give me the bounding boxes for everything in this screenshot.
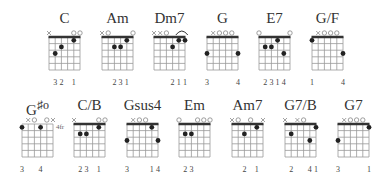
finger-number: 2 — [263, 78, 267, 87]
finger-number: 1 — [310, 78, 314, 87]
finger-number: 4 — [39, 165, 43, 172]
finger-number: 3 — [269, 78, 273, 87]
finger-number: 4 — [236, 78, 240, 87]
chord-name: G — [193, 10, 253, 26]
open-string-icon — [103, 118, 107, 122]
finger-dot — [96, 125, 101, 130]
chord-name: Am — [88, 10, 148, 26]
muted-string-icon — [230, 118, 234, 122]
muted-string-icon — [131, 118, 135, 122]
finger-dot — [20, 125, 25, 130]
open-string-icon — [288, 31, 292, 35]
finger-dot — [289, 132, 294, 137]
finger-number: 2 — [112, 78, 116, 87]
finger-dot — [367, 125, 372, 130]
fretboard-grid — [279, 115, 326, 162]
finger-dot — [254, 125, 259, 130]
open-string-icon — [208, 118, 212, 122]
finger-number: 4 — [156, 165, 160, 172]
fret-position-label: 4fr — [56, 123, 65, 131]
finger-dot — [336, 138, 341, 143]
open-string-icon — [106, 31, 110, 35]
open-string-icon — [328, 31, 332, 35]
finger-dot — [84, 132, 89, 137]
muted-string-icon — [261, 118, 265, 122]
finger-number: 3 — [119, 78, 123, 87]
muted-string-icon — [295, 118, 299, 122]
fretboard-grid — [173, 115, 220, 162]
finger-dot — [341, 51, 346, 56]
finger-dot — [242, 132, 247, 137]
open-string-icon — [164, 31, 168, 35]
finger-dot — [124, 38, 129, 43]
chord-name: E7 — [245, 10, 305, 26]
chord-name: Dm7 — [140, 10, 200, 26]
open-string-icon — [202, 118, 206, 122]
open-string-icon — [236, 118, 240, 122]
open-string-icon — [32, 118, 36, 122]
fretboard-grid: 4fr — [16, 115, 63, 162]
finger-dot — [310, 38, 315, 43]
open-string-icon — [143, 118, 147, 122]
finger-number: 1 — [72, 78, 76, 87]
finger-dot — [176, 38, 181, 43]
fretboard-grid — [96, 28, 143, 75]
finger-number: 4 — [308, 165, 312, 172]
finger-number: 1 — [255, 165, 259, 172]
fretboard-grid — [332, 115, 379, 162]
finger-dot — [269, 45, 274, 50]
muted-string-icon — [72, 118, 76, 122]
open-string-icon — [361, 118, 365, 122]
open-string-icon — [97, 118, 101, 122]
fretboard-grid — [121, 115, 168, 162]
finger-dot — [78, 132, 83, 137]
finger-number: 3 — [205, 78, 209, 87]
fretboard-grid — [306, 28, 353, 75]
chord-name: G7 — [324, 97, 384, 113]
muted-string-icon — [316, 31, 320, 35]
finger-dot — [118, 45, 123, 50]
open-string-icon — [335, 31, 339, 35]
finger-number: 2 — [183, 165, 187, 172]
finger-dot — [314, 125, 319, 130]
open-string-icon — [301, 118, 305, 122]
chord-name: G/F — [298, 10, 358, 26]
chord-name: C/B — [60, 97, 120, 113]
finger-dot — [183, 38, 188, 43]
open-string-icon — [223, 31, 227, 35]
open-string-icon — [230, 31, 234, 35]
chord-name: Gsus4 — [113, 97, 173, 113]
fretboard-grid — [68, 115, 115, 162]
muted-string-icon — [158, 31, 162, 35]
finger-number: 2 — [78, 165, 82, 172]
chord-name: C — [35, 10, 95, 26]
muted-string-icon — [152, 31, 156, 35]
barre-arc-icon — [176, 31, 188, 35]
finger-number: 1 — [150, 165, 154, 172]
finger-number: 1 — [314, 165, 318, 172]
finger-number: 1 — [97, 165, 101, 172]
finger-number: 4 — [341, 78, 345, 87]
finger-dot — [156, 138, 161, 143]
finger-dot — [59, 45, 64, 50]
finger-number: 1 — [125, 78, 129, 87]
finger-number: 1 — [276, 78, 280, 87]
open-string-icon — [177, 118, 181, 122]
finger-dot — [183, 132, 188, 137]
open-string-icon — [348, 118, 352, 122]
fretboard-grid — [148, 28, 195, 75]
chord-name: Am7 — [218, 97, 278, 113]
open-string-icon — [137, 118, 141, 122]
chord-name: Em — [165, 97, 225, 113]
open-string-icon — [217, 31, 221, 35]
finger-number: 2 — [59, 78, 63, 87]
open-string-icon — [72, 31, 76, 35]
open-string-icon — [131, 31, 135, 35]
finger-number: 2 — [242, 165, 246, 172]
finger-dot — [149, 125, 154, 130]
muted-string-icon — [100, 31, 104, 35]
finger-number: 3 — [189, 165, 193, 172]
open-string-icon — [195, 118, 199, 122]
finger-number: 2 — [171, 78, 175, 87]
finger-number: 3 — [84, 165, 88, 172]
